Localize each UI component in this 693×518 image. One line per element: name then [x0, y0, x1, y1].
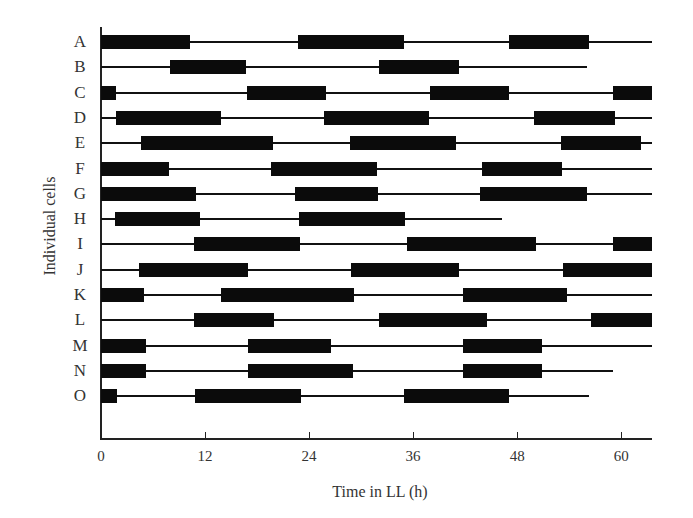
- activity-bar: [379, 60, 459, 74]
- activity-bar: [350, 136, 457, 150]
- row-trace-line: [101, 243, 652, 245]
- x-tick-label: 12: [185, 448, 225, 465]
- activity-bar: [324, 111, 429, 125]
- row-label: H: [67, 209, 93, 229]
- row-label: L: [67, 310, 93, 330]
- activity-bar: [247, 86, 327, 100]
- activity-bar: [351, 263, 459, 277]
- row-label: O: [67, 386, 93, 406]
- activity-bar: [221, 288, 355, 302]
- activity-bar: [561, 136, 642, 150]
- row-trace-line: [101, 168, 652, 170]
- activity-bar: [101, 86, 116, 100]
- row-label: D: [67, 108, 93, 128]
- row-label: G: [67, 184, 93, 204]
- activity-bar: [613, 237, 652, 251]
- x-tick-label: 24: [289, 448, 329, 465]
- activity-bar: [430, 86, 509, 100]
- activity-bar: [299, 212, 406, 226]
- x-tick-mark: [621, 432, 623, 438]
- activity-bar: [101, 187, 196, 201]
- activity-bar: [195, 389, 302, 403]
- activity-bar: [139, 263, 247, 277]
- x-tick-label: 48: [497, 448, 537, 465]
- activity-bar: [101, 339, 146, 353]
- activity-bar: [248, 364, 354, 378]
- x-axis-title: Time in LL (h): [250, 483, 510, 501]
- row-trace-line: [101, 294, 652, 296]
- activity-bar: [271, 162, 377, 176]
- x-tick-mark: [309, 432, 311, 438]
- activity-bar: [463, 339, 542, 353]
- row-trace-line: [101, 92, 652, 94]
- row-label: M: [67, 336, 93, 356]
- activity-bar: [101, 288, 144, 302]
- x-tick-label: 36: [393, 448, 433, 465]
- activity-bar: [298, 35, 405, 49]
- row-label: N: [67, 361, 93, 381]
- activity-bar: [379, 313, 487, 327]
- activity-bar: [613, 86, 652, 100]
- x-tick-label: 0: [81, 448, 121, 465]
- activity-bar: [248, 339, 331, 353]
- activity-bar: [480, 187, 588, 201]
- activity-bar: [509, 35, 589, 49]
- activity-bar: [101, 162, 169, 176]
- row-trace-line: [101, 395, 589, 397]
- row-label: I: [67, 234, 93, 254]
- row-label: J: [67, 260, 93, 280]
- row-label: E: [67, 133, 93, 153]
- activity-bar: [141, 136, 273, 150]
- activity-bar: [170, 60, 245, 74]
- x-tick-label: 60: [601, 448, 641, 465]
- activity-bar: [534, 111, 615, 125]
- activity-bar: [295, 187, 378, 201]
- row-label: K: [67, 285, 93, 305]
- activity-bar: [101, 35, 190, 49]
- activity-bar: [482, 162, 563, 176]
- activity-bar: [463, 288, 567, 302]
- activity-bar: [463, 364, 542, 378]
- x-tick-mark: [517, 432, 519, 438]
- x-axis-line: [100, 438, 652, 440]
- row-label: F: [67, 159, 93, 179]
- cell-rhythm-chart: Individual cells ABCDEFGHIJKLMNO 0122436…: [0, 0, 693, 518]
- activity-bar: [116, 111, 221, 125]
- y-axis-title: Individual cells: [41, 136, 59, 316]
- row-trace-line: [101, 319, 652, 321]
- activity-bar: [115, 212, 200, 226]
- activity-bar: [101, 389, 117, 403]
- x-tick-mark: [205, 432, 207, 438]
- x-tick-mark: [413, 432, 415, 438]
- activity-bar: [407, 237, 536, 251]
- activity-bar: [194, 237, 301, 251]
- row-label: C: [67, 83, 93, 103]
- row-trace-line: [101, 345, 652, 347]
- activity-bar: [591, 313, 653, 327]
- activity-bar: [563, 263, 652, 277]
- row-label: B: [67, 57, 93, 77]
- activity-bar: [404, 389, 509, 403]
- row-label: A: [67, 32, 93, 52]
- activity-bar: [101, 364, 146, 378]
- activity-bar: [194, 313, 274, 327]
